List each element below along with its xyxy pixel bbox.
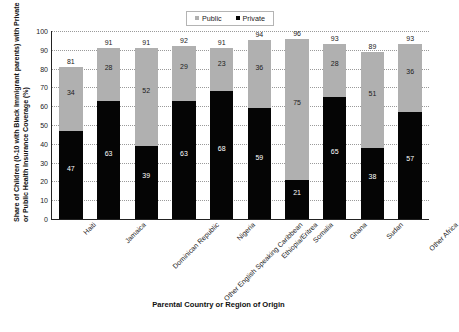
- y-axis-tick-label: 40: [40, 140, 48, 147]
- bar-column[interactable]: 593694: [248, 31, 271, 219]
- bar-series-group: 4734816328913952916329926823915936942175…: [52, 31, 429, 219]
- bar-column[interactable]: 632891: [97, 31, 120, 219]
- bar-segment-public[interactable]: [398, 44, 421, 112]
- x-axis-tick-label: Jamaica: [123, 221, 146, 244]
- bar-total-label: 94: [248, 31, 271, 38]
- y-axis-tick-label: 100: [36, 28, 48, 35]
- bar-segment-private[interactable]: [323, 97, 346, 219]
- bar-segment-private[interactable]: [285, 180, 308, 219]
- x-axis-tick-label: Ghana: [348, 221, 368, 241]
- y-axis-title-line1: Share of Children (0-10 with Black Immig…: [14, 3, 21, 222]
- y-axis-title-line2: or Public Health Insurance Coverage (%): [23, 87, 30, 222]
- bar-total-label: 81: [59, 58, 82, 65]
- x-axis-tick-label: Haiti: [82, 221, 97, 236]
- bar-value-label-private: 68: [210, 145, 233, 152]
- bar-value-label-private: 63: [172, 149, 195, 156]
- bar-value-label-public: 34: [59, 88, 82, 95]
- bar-column[interactable]: 473481: [59, 31, 82, 219]
- legend-item-public: Public: [195, 15, 222, 22]
- bar-segment-private[interactable]: [210, 91, 233, 219]
- x-axis-tick-label: Other Africa: [428, 221, 459, 252]
- bar-column[interactable]: 632992: [172, 31, 195, 219]
- y-axis-title: Share of Children (0-10 with Black Immig…: [0, 0, 26, 226]
- bar-value-label-public: 28: [323, 60, 346, 67]
- bar-value-label-private: 47: [59, 164, 82, 171]
- bar-segment-public[interactable]: [285, 39, 308, 180]
- bar-value-label-private: 21: [285, 189, 308, 196]
- bar-segment-public[interactable]: [97, 48, 120, 101]
- bar-segment-public[interactable]: [248, 40, 271, 108]
- y-axis-tick-label: 10: [40, 197, 48, 204]
- bar-column[interactable]: 217596: [285, 31, 308, 219]
- plot-area: 0102030405060708090100 47348163289139529…: [51, 31, 429, 220]
- bar-value-label-public: 52: [135, 86, 158, 93]
- x-axis-tick-label: Nigeria: [235, 221, 256, 242]
- legend-item-private: Private: [236, 15, 265, 22]
- y-axis-tick-label: 70: [40, 84, 48, 91]
- x-axis-tick-labels: HaitiJamaicaDominican RepublicOther Engl…: [51, 221, 428, 299]
- bar-total-label: 93: [398, 35, 421, 42]
- x-axis-tick-label: Dominican Republic: [171, 221, 220, 270]
- bar-value-label-private: 63: [97, 149, 120, 156]
- bar-segment-public[interactable]: [172, 46, 195, 101]
- y-axis-tick-label: 90: [40, 46, 48, 53]
- bar-column[interactable]: 573693: [398, 31, 421, 219]
- y-axis-tick-label: 20: [40, 178, 48, 185]
- bar-total-label: 96: [285, 30, 308, 37]
- y-axis-tick-label: 30: [40, 159, 48, 166]
- legend-swatch-private: [236, 16, 240, 20]
- bar-value-label-public: 23: [210, 59, 233, 66]
- bar-column[interactable]: 395291: [135, 31, 158, 219]
- bar-value-label-public: 36: [248, 64, 271, 71]
- bar-segment-private[interactable]: [59, 131, 82, 219]
- bar-total-label: 91: [97, 39, 120, 46]
- x-axis-title: Parental Country or Region of Origin: [0, 300, 437, 309]
- y-axis-tick-label: 50: [40, 122, 48, 129]
- legend-label-public: Public: [202, 15, 222, 22]
- x-axis-tick-label: Other English Speaking Caribbean: [223, 221, 304, 302]
- bar-total-label: 91: [210, 39, 233, 46]
- bar-segment-public[interactable]: [323, 44, 346, 97]
- legend-label-private: Private: [243, 15, 265, 22]
- bar-value-label-public: 75: [285, 99, 308, 106]
- bar-column[interactable]: 652893: [323, 31, 346, 219]
- bar-value-label-public: 28: [97, 64, 120, 71]
- chart-legend: Public Private: [186, 11, 274, 26]
- y-axis-tick-label: 80: [40, 65, 48, 72]
- bar-segment-private[interactable]: [135, 146, 158, 219]
- bar-value-label-public: 29: [172, 63, 195, 70]
- bar-segment-private[interactable]: [398, 112, 421, 219]
- bar-column[interactable]: 385189: [361, 31, 384, 219]
- bar-value-label-public: 36: [398, 68, 421, 75]
- bar-segment-private[interactable]: [172, 101, 195, 219]
- bar-segment-public[interactable]: [135, 48, 158, 146]
- bar-segment-private[interactable]: [248, 108, 271, 219]
- bar-segment-private[interactable]: [361, 148, 384, 219]
- legend-swatch-public: [195, 16, 199, 20]
- bar-value-label-private: 39: [135, 172, 158, 179]
- bar-value-label-private: 59: [248, 153, 271, 160]
- bar-column[interactable]: 682391: [210, 31, 233, 219]
- y-axis-tick-label: 60: [40, 103, 48, 110]
- bar-total-label: 92: [172, 37, 195, 44]
- y-axis-tick-label: 0: [44, 216, 48, 223]
- bar-segment-public[interactable]: [361, 52, 384, 148]
- bar-value-label-private: 38: [361, 173, 384, 180]
- bar-total-label: 89: [361, 43, 384, 50]
- x-axis-tick-label: Sudan: [385, 221, 404, 240]
- bar-segment-public[interactable]: [210, 48, 233, 91]
- bar-value-label-public: 51: [361, 89, 384, 96]
- bar-value-label-private: 57: [398, 155, 421, 162]
- bar-total-label: 93: [323, 35, 346, 42]
- bar-value-label-private: 65: [323, 147, 346, 154]
- bar-total-label: 91: [135, 39, 158, 46]
- bar-segment-private[interactable]: [97, 101, 120, 219]
- bar-segment-public[interactable]: [59, 67, 82, 131]
